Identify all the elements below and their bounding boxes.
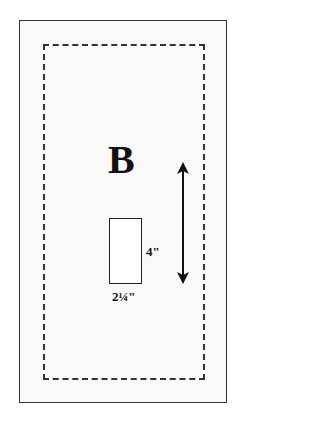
pocket-width-label: 2¼" (112, 290, 135, 303)
pocket-height-label: 4" (146, 245, 160, 258)
panel-label: B (108, 140, 135, 180)
pocket-rectangle (109, 218, 142, 284)
double-arrow-icon (174, 162, 192, 284)
